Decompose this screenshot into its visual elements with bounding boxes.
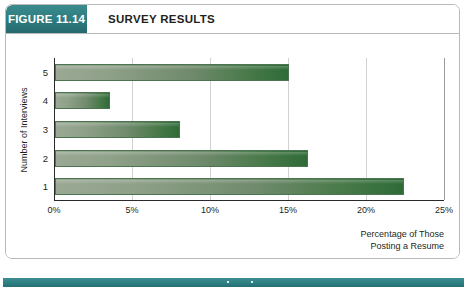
- gridline: [444, 58, 445, 200]
- bar-row: [55, 121, 180, 138]
- page-bottom-rule: [3, 278, 464, 287]
- x-tick-label: 20%: [357, 205, 375, 215]
- x-tick-label: 15%: [279, 205, 297, 215]
- rule-dot: [227, 281, 229, 283]
- plot-area: 54321 0%5%10%15%20%25%: [54, 58, 444, 201]
- x-axis-caption-line-2: Posting a Resume: [256, 241, 444, 253]
- bar-4: [55, 92, 110, 109]
- bar-row: [55, 92, 110, 109]
- y-tick-label: 4: [34, 92, 48, 109]
- chart-body: Number of Interviews 54321 0%5%10%15%20%…: [6, 34, 459, 258]
- bar-3: [55, 121, 180, 138]
- x-tick-label: 5%: [125, 205, 138, 215]
- bars-layer: [55, 58, 444, 200]
- y-tick-label: 1: [34, 178, 48, 195]
- figure-header: FIGURE 11.14 SURVEY RESULTS: [6, 5, 459, 34]
- y-axis-title: Number of Interviews: [17, 58, 31, 201]
- x-tick-label: 25%: [435, 205, 453, 215]
- bar-row: [55, 64, 289, 81]
- x-tick-label: 0%: [47, 205, 60, 215]
- bar-5: [55, 64, 289, 81]
- y-tick-label: 2: [34, 150, 48, 167]
- y-axis-title-text: Number of Interviews: [19, 87, 29, 172]
- x-axis-caption: Percentage of Those Posting a Resume: [256, 229, 444, 252]
- bar-1: [55, 178, 404, 195]
- figure-title: SURVEY RESULTS: [87, 5, 459, 33]
- x-tick-label: 10%: [201, 205, 219, 215]
- y-tick-label: 5: [34, 64, 48, 81]
- x-axis-caption-line-1: Percentage of Those: [256, 229, 444, 241]
- bar-2: [55, 150, 308, 167]
- bar-row: [55, 150, 308, 167]
- figure-card: FIGURE 11.14 SURVEY RESULTS Number of In…: [5, 4, 460, 259]
- rule-dot: [251, 281, 253, 283]
- bar-row: [55, 178, 404, 195]
- figure-number-badge: FIGURE 11.14: [6, 5, 87, 33]
- y-tick-label: 3: [34, 121, 48, 138]
- x-axis-line: [54, 200, 444, 201]
